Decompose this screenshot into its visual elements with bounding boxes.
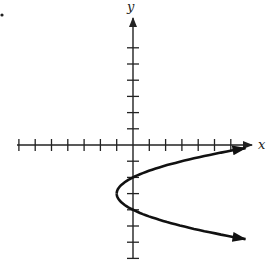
x-axis-label: x — [258, 137, 266, 152]
parabola-upper-branch — [117, 148, 246, 194]
y-axis-label: y — [126, 0, 135, 14]
parabola-graph: x y — [0, 0, 267, 270]
figure-marker-dot — [0, 13, 3, 16]
parabola-lower-branch — [117, 194, 246, 240]
